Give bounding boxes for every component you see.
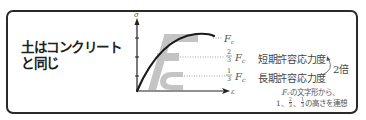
note-fraction-two-thirds: 2 3	[289, 97, 292, 108]
ratio-label: 2倍	[333, 61, 349, 76]
fraction-numerator: 2	[227, 48, 231, 56]
fraction-denominator: 3	[301, 103, 304, 108]
watermark-c	[160, 72, 183, 90]
level-label-fc: F c	[223, 33, 235, 45]
note-line-2-prefix: 1、	[276, 97, 288, 108]
level-label-one-third-fc: 1 3 F c	[226, 67, 246, 83]
y-axis-label: σ	[134, 11, 139, 19]
fraction-denominator: 3	[227, 56, 231, 64]
fraction-denominator: 3	[227, 75, 231, 83]
fc-subscript: c	[231, 38, 235, 45]
note-line-2: 1、 2 3 、 1 3 の高さを連想	[276, 97, 347, 108]
fc-subscript: c	[242, 76, 246, 83]
short-term-allowable-stress-label: 短期許容応力度	[258, 51, 326, 66]
x-axis-label: ε	[231, 88, 235, 96]
y-axis-arrowhead	[135, 18, 140, 25]
fc-subscript: c	[242, 57, 246, 64]
fraction-denominator: 3	[289, 103, 292, 108]
level-label-two-thirds-fc: 2 3 F c	[226, 48, 246, 64]
note-fraction-one-third: 1 3	[301, 97, 304, 108]
ratio-arrowhead	[327, 56, 331, 61]
fraction-numerator: 1	[227, 67, 231, 75]
note-line-2-text: の高さを連想	[305, 97, 347, 108]
long-term-allowable-stress-label: 長期許容応力度	[258, 70, 326, 85]
note-line-2-separator: 、	[293, 97, 300, 108]
stress-strain-curve	[137, 34, 214, 91]
note-line-1-text: の文字形から、	[290, 88, 339, 97]
